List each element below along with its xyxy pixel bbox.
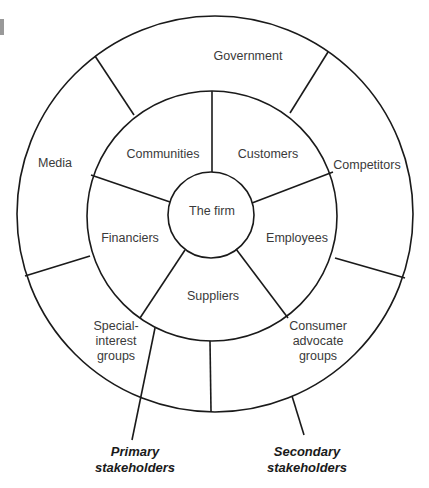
- suppliers-label: Suppliers: [187, 289, 239, 304]
- primary-stakeholders-label: Primary stakeholders: [95, 444, 175, 476]
- firm-label: The firm: [189, 204, 235, 219]
- primary-divider: [236, 249, 288, 318]
- secondary-divider: [335, 258, 405, 278]
- employees-label: Employees: [266, 231, 328, 246]
- secondary-stakeholders-label: Secondary stakeholders: [267, 444, 347, 476]
- primary-divider: [140, 250, 185, 318]
- secondary-divider: [95, 56, 134, 115]
- financiers-label: Financiers: [101, 231, 159, 246]
- primary-divider: [91, 175, 170, 202]
- stakeholder-diagram: [0, 0, 429, 488]
- primary-divider: [252, 172, 333, 203]
- secondary-divider: [25, 256, 90, 276]
- secondary-divider: [290, 52, 328, 113]
- customers-label: Customers: [238, 147, 298, 162]
- consumer-advocate-groups-label: Consumer advocate groups: [289, 319, 347, 364]
- secondary-divider: [210, 341, 211, 411]
- special-interest-groups-label: Special- interest groups: [93, 319, 138, 364]
- media-label: Media: [38, 156, 72, 171]
- secondary-pointer: [292, 396, 304, 435]
- competitors-label: Competitors: [333, 158, 400, 173]
- government-label: Government: [214, 49, 283, 64]
- communities-label: Communities: [127, 147, 200, 162]
